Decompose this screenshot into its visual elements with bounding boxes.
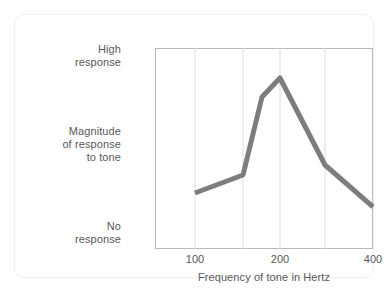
x-axis-tick-labels: 100200400	[155, 253, 373, 269]
x-tick-100: 100	[186, 253, 204, 266]
y-axis-high-label: High response	[11, 43, 121, 69]
x-tick-400: 400	[364, 253, 382, 266]
x-axis-title: Frequency of tone in Hertz	[155, 271, 373, 284]
series-line	[195, 78, 373, 207]
y-axis-title: Magnitude of response to tone	[1, 125, 121, 164]
data-series-line	[155, 48, 373, 249]
y-axis-no-response-label: No response	[11, 220, 121, 246]
figure-card: High response No response Magnitude of r…	[14, 14, 374, 278]
x-tick-200: 200	[271, 253, 289, 266]
